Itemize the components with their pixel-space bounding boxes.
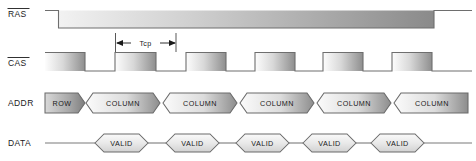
addr-segment-label: COLUMN (337, 99, 371, 108)
cas-pulse-fill (323, 53, 363, 72)
tcp-label: Tcp (139, 39, 151, 48)
addr-segment-label: COLUMN (415, 99, 449, 108)
cas-pulse-fill (186, 53, 226, 72)
data-valid-label: VALID (386, 139, 409, 148)
cas-pulse-fill (45, 53, 85, 72)
signal-label-cas: CAS (8, 58, 27, 68)
signal-label-data: DATA (8, 138, 31, 148)
data-valid-label: VALID (110, 139, 133, 148)
addr-segment-label: COLUMN (106, 99, 140, 108)
addr-segment-label: COLUMN (183, 99, 217, 108)
data-valid-label: VALID (251, 139, 274, 148)
data-valid-label: VALID (181, 139, 204, 148)
data-valid-label: VALID (318, 139, 341, 148)
timing-diagram: RAS CAS Tcp (0, 0, 476, 161)
cas-pulse-fill (115, 53, 156, 72)
ras-low-fill (59, 11, 435, 29)
signal-row-ras: RAS (8, 9, 473, 29)
signal-label-addr: ADDR (8, 98, 34, 108)
addr-segment-label: COLUMN (260, 99, 294, 108)
addr-segment-label: ROW (53, 99, 72, 108)
cas-pulse-fill (392, 53, 432, 72)
signal-label-ras: RAS (8, 9, 27, 19)
cas-pulse-fill (255, 53, 295, 72)
